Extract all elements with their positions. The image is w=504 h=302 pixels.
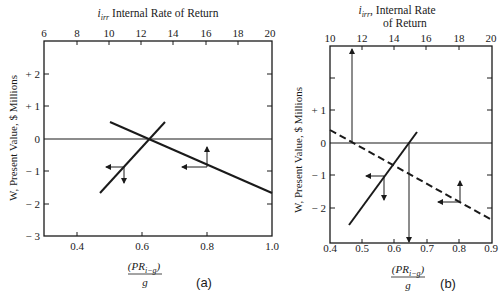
svg-text:10: 10 — [325, 32, 337, 44]
svg-text:0: 0 — [35, 133, 41, 145]
svg-text:14: 14 — [168, 27, 180, 39]
svg-text:(PRi−g): (PRi−g) — [392, 263, 425, 278]
chart-a-y-axis-label: W, Present Value, $ Millions — [7, 75, 19, 201]
chart-a-panel-label: (a) — [196, 275, 212, 290]
svg-text:(PRi−g): (PRi−g) — [128, 260, 161, 275]
svg-text:g: g — [142, 276, 148, 288]
svg-text:− 3: − 3 — [26, 230, 41, 242]
svg-text:6: 6 — [41, 27, 47, 39]
svg-text:18: 18 — [454, 32, 466, 44]
svg-text:16: 16 — [201, 27, 213, 39]
svg-text:− 1: − 1 — [312, 169, 326, 181]
svg-text:14: 14 — [389, 32, 401, 44]
svg-text:0.8: 0.8 — [200, 240, 214, 252]
svg-text:0.7: 0.7 — [420, 242, 434, 254]
svg-text:0.8: 0.8 — [452, 242, 466, 254]
svg-text:− 2: − 2 — [312, 202, 326, 214]
svg-text:0.9: 0.9 — [484, 242, 498, 254]
svg-text:20: 20 — [486, 32, 498, 44]
chart-a-x-axis-label: (PRi−g) g — [128, 260, 162, 288]
svg-text:0.6: 0.6 — [135, 240, 149, 252]
svg-text:8: 8 — [74, 27, 80, 39]
svg-text:1.0: 1.0 — [265, 240, 279, 252]
svg-text:12: 12 — [136, 27, 147, 39]
chart-b-bottom-tick-labels: 0.4 0.5 0.6 0.7 0.8 0.9 — [323, 242, 498, 254]
chart-b-x-axis-label: (PRi−g) g — [391, 263, 425, 291]
svg-text:18: 18 — [233, 27, 245, 39]
svg-text:10: 10 — [104, 27, 116, 39]
chart-a-series-pr-line — [110, 122, 272, 193]
chart-a-bottom-tick-labels: 0.4 0.6 0.8 1.0 — [70, 240, 279, 252]
chart-b-panel-label: (b) — [440, 276, 456, 291]
svg-text:0.4: 0.4 — [323, 242, 337, 254]
chart-a-top-tick-labels: 6 8 10 12 14 16 18 20 — [41, 27, 276, 39]
svg-text:16: 16 — [421, 32, 433, 44]
chart-a-y-tick-labels: + 2 + 1 0 − 1 − 2 − 3 — [26, 68, 41, 242]
chart-b-top-tick-labels: 10 12 14 16 18 20 — [325, 32, 498, 44]
chart-b-top-axis-title-line2: of Return — [383, 17, 427, 29]
chart-b: iirr, Internal Rate of Return 10 12 14 1… — [292, 4, 498, 291]
svg-text:− 1: − 1 — [26, 165, 40, 177]
svg-text:g: g — [405, 279, 411, 291]
svg-text:− 2: − 2 — [26, 198, 40, 210]
chart-b-y-axis-label: W, Present Value, $ Millions — [292, 87, 304, 213]
svg-text:0: 0 — [321, 137, 327, 149]
chart-a-top-axis-title: iirr Internal Rate of Return — [98, 7, 219, 22]
svg-text:0.4: 0.4 — [70, 240, 84, 252]
chart-a: iirr Internal Rate of Return 6 8 10 12 1… — [7, 7, 279, 290]
svg-text:20: 20 — [265, 27, 277, 39]
chart-b-y-tick-labels: + 1 0 − 1 − 2 — [312, 104, 327, 214]
chart-a-arrow-pair-left-up — [182, 147, 207, 167]
svg-text:0.5: 0.5 — [355, 242, 369, 254]
svg-text:+ 2: + 2 — [26, 68, 40, 80]
chart-canvas: iirr Internal Rate of Return 6 8 10 12 1… — [0, 0, 504, 302]
svg-text:+ 1: + 1 — [26, 100, 40, 112]
svg-text:12: 12 — [357, 32, 368, 44]
svg-text:0.6: 0.6 — [387, 242, 401, 254]
svg-text:+ 1: + 1 — [312, 104, 326, 116]
